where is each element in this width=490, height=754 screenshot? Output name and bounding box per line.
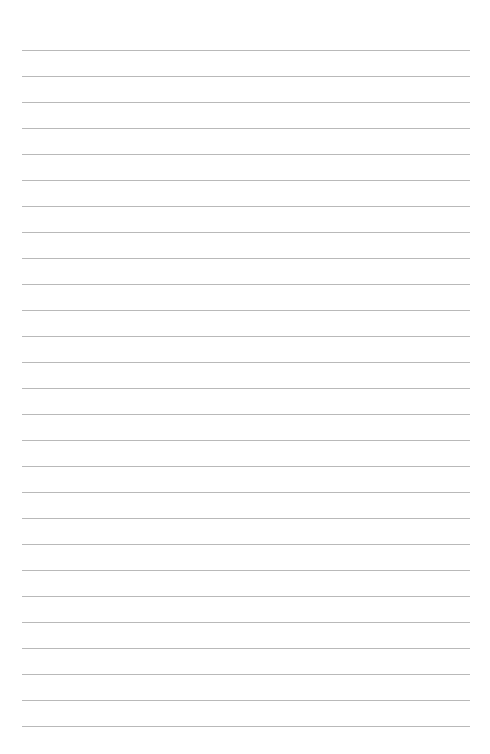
- ruled-line: [22, 414, 470, 415]
- ruled-line: [22, 596, 470, 597]
- lined-paper-page: [0, 0, 490, 754]
- ruled-line: [22, 76, 470, 77]
- ruled-line: [22, 700, 470, 701]
- ruled-line: [22, 622, 470, 623]
- ruled-line: [22, 206, 470, 207]
- ruled-line: [22, 440, 470, 441]
- ruled-line: [22, 50, 470, 51]
- ruled-line: [22, 336, 470, 337]
- ruled-line: [22, 518, 470, 519]
- ruled-line: [22, 674, 470, 675]
- ruled-line: [22, 154, 470, 155]
- ruled-line: [22, 648, 470, 649]
- ruled-line: [22, 232, 470, 233]
- ruled-line: [22, 726, 470, 727]
- ruled-line: [22, 102, 470, 103]
- ruled-line: [22, 284, 470, 285]
- ruled-line: [22, 128, 470, 129]
- ruled-line: [22, 310, 470, 311]
- ruled-line: [22, 544, 470, 545]
- ruled-line: [22, 492, 470, 493]
- ruled-line: [22, 466, 470, 467]
- ruled-line: [22, 180, 470, 181]
- ruled-line: [22, 362, 470, 363]
- ruled-line: [22, 258, 470, 259]
- ruled-line: [22, 570, 470, 571]
- ruled-line: [22, 388, 470, 389]
